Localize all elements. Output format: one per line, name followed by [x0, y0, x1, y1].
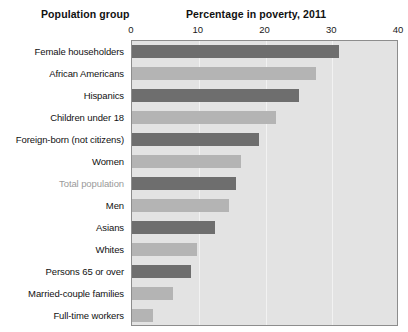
category-label: Women [92, 156, 127, 167]
category-label: Full-time workers [53, 310, 127, 321]
category-label: Total population [59, 178, 127, 189]
bar [132, 45, 339, 58]
category-label: Children under 18 [50, 112, 127, 123]
category-label: Hispanics [84, 90, 127, 101]
bar-row [132, 283, 397, 305]
bar [132, 243, 197, 256]
x-axis-tick-40: 40 [393, 24, 404, 35]
bar [132, 221, 215, 234]
category-label: Whites [96, 244, 127, 255]
category-label-row: Children under 18 [0, 106, 127, 128]
category-label-row: Hispanics [0, 84, 127, 106]
category-label-row: Persons 65 or over [0, 260, 127, 282]
category-label: Female householders [35, 46, 127, 57]
category-label-row: Asians [0, 216, 127, 238]
bar [132, 177, 236, 190]
category-label: Men [106, 200, 127, 211]
category-label-row: Full-time workers [0, 304, 127, 326]
category-label: Asians [96, 222, 127, 233]
bar-row [132, 239, 397, 261]
x-axis-tick-30: 30 [326, 24, 337, 35]
bar [132, 67, 316, 80]
bar-row [132, 217, 397, 239]
bar [132, 309, 153, 322]
category-label-row: Women [0, 150, 127, 172]
bar [132, 89, 299, 102]
poverty-bar-chart-figure: Population group Percentage in poverty, … [0, 0, 408, 332]
bar-row [132, 261, 397, 283]
x-axis-tick-10: 10 [192, 24, 203, 35]
bar [132, 265, 191, 278]
category-label: Married-couple families [28, 288, 127, 299]
category-label-row: Total population [0, 172, 127, 194]
bar-row [132, 41, 397, 63]
chart-title: Percentage in poverty, 2011 [186, 8, 326, 20]
category-label: African Americans [49, 68, 127, 79]
population-group-header: Population group [41, 8, 130, 20]
x-axis-tick-20: 20 [259, 24, 270, 35]
category-label-row: Married-couple families [0, 282, 127, 304]
bar [132, 133, 259, 146]
category-label-row: Female householders [0, 40, 127, 62]
x-axis-tick-0: 0 [128, 24, 133, 35]
bar-row [132, 107, 397, 129]
category-label-row: Foreign-born (not citizens) [0, 128, 127, 150]
category-label: Foreign-born (not citizens) [16, 134, 127, 145]
bar-row [132, 129, 397, 151]
bar-row [132, 173, 397, 195]
bar-row [132, 305, 397, 326]
category-label-row: African Americans [0, 62, 127, 84]
category-label-row: Whites [0, 238, 127, 260]
x-axis: 010203040 [131, 24, 398, 38]
bar-rows [132, 41, 397, 325]
category-label-column: Female householdersAfrican AmericansHisp… [0, 40, 127, 326]
category-label-row: Men [0, 194, 127, 216]
bar-row [132, 63, 397, 85]
bar [132, 155, 241, 168]
bar [132, 287, 173, 300]
bar-row [132, 195, 397, 217]
bar-row [132, 151, 397, 173]
category-label: Persons 65 or over [46, 266, 127, 277]
bar-row [132, 85, 397, 107]
bar [132, 111, 276, 124]
bar [132, 199, 229, 212]
plot-area [131, 40, 398, 326]
